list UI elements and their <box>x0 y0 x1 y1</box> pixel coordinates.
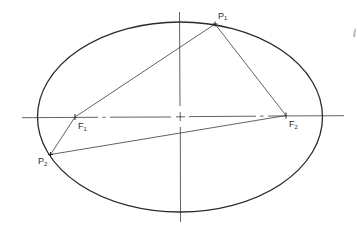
segment-p2-f1 <box>51 117 76 155</box>
segment-p1-f1 <box>75 24 215 117</box>
label-f2: F2 <box>289 119 299 130</box>
point-markers <box>48 22 286 158</box>
label-f1: F1 <box>78 121 88 132</box>
label-p1: P1 <box>218 11 228 21</box>
segment-p1-f2 <box>215 24 286 116</box>
label-p2: P2 <box>38 156 48 167</box>
minor-axis <box>176 12 185 222</box>
segment-p2-f2 <box>51 116 287 155</box>
point-p2-marker <box>48 152 53 157</box>
focal-segments <box>51 24 287 155</box>
ellipse-diagram: F1 F2 P1 P2 <box>0 0 357 229</box>
scan-artifact-mark <box>353 28 356 37</box>
